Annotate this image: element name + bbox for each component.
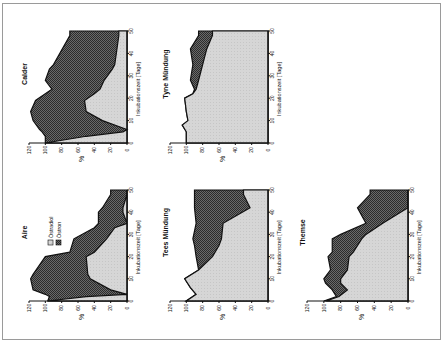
panel-title: Themse [299,219,306,246]
percent-tick-label: 60 [75,305,81,311]
y-axis-label: % [219,314,226,320]
y-axis-label: % [78,156,85,162]
percent-tick-label: 40 [232,147,238,153]
percent-tick-label: 100 [42,146,48,155]
y-axis-label: % [78,314,85,320]
percent-tick-label: 80 [337,305,343,311]
panel-calder: 02040608010012001020304050Inkubationszei… [21,28,141,162]
day-tick-label: 10 [269,276,275,282]
day-tick-label: 0 [269,141,275,144]
percent-tick-label: 100 [183,146,189,155]
day-tick-label: 10 [269,118,275,124]
panel-tees-mündung: 02040608010012001020304050Inkubationszei… [162,187,282,320]
percent-tick-label: 40 [91,147,97,153]
day-tick-label: 50 [269,28,275,34]
day-tick-label: 50 [128,187,134,193]
y-axis-label: % [358,314,365,320]
percent-tick-label: 60 [75,147,81,153]
day-tick-label: 50 [409,187,415,193]
x-axis-label: Inkubationszeit [Tage] [135,220,141,275]
percent-tick-label: 0 [124,148,130,151]
percent-tick-label: 100 [183,304,189,313]
percent-tick-label: 0 [265,306,271,309]
panel-title: Tyne Mündung [162,49,170,98]
x-axis-label: Inkubationszeit [Tage] [276,220,282,275]
day-tick-label: 40 [269,209,275,215]
day-tick-label: 50 [269,187,275,193]
percent-tick-label: 20 [107,147,113,153]
percent-tick-label: 80 [199,147,205,153]
day-tick-label: 30 [269,73,275,79]
percent-tick-label: 60 [216,305,222,311]
percent-tick-label: 0 [405,306,411,309]
panel-aire: 02040608010012001020304050Inkubationszei… [21,187,141,320]
legend-swatch [48,240,53,245]
panel-title: Tees Mündung [162,208,170,257]
percent-tick-label: 100 [321,304,327,313]
day-tick-label: 20 [409,254,415,260]
y-axis-label: % [219,156,226,162]
day-tick-label: 40 [409,209,415,215]
percent-tick-label: 60 [216,147,222,153]
percent-tick-label: 80 [58,147,64,153]
day-tick-label: 30 [128,73,134,79]
panel-title: Aire [21,226,28,240]
day-tick-label: 0 [409,299,415,302]
percent-tick-label: 80 [58,305,64,311]
percent-tick-label: 0 [124,306,130,309]
percent-tick-label: 20 [248,305,254,311]
percent-tick-label: 120 [26,146,32,155]
panel-themse: 02040608010012001020304050Inkubationszei… [299,187,422,320]
panel-title: Calder [21,63,28,85]
day-tick-label: 40 [269,50,275,56]
percent-tick-label: 60 [354,305,360,311]
x-axis-label: Inkubationszeit [Tage] [135,62,141,117]
chart-figure: 02040608010012001020304050Inkubationszei… [0,0,445,344]
day-tick-label: 20 [128,95,134,101]
day-tick-label: 10 [128,276,134,282]
x-axis-label: Inkubationszeit [Tage] [276,62,282,117]
legend-label: Östradiol [48,216,54,238]
x-axis-label: Inkubationszeit [Tage] [416,220,422,275]
percent-tick-label: 40 [91,305,97,311]
percent-tick-label: 120 [167,304,173,313]
day-tick-label: 10 [409,276,415,282]
day-tick-label: 40 [128,50,134,56]
day-tick-label: 20 [269,254,275,260]
percent-tick-label: 20 [248,147,254,153]
percent-tick-label: 20 [107,305,113,311]
day-tick-label: 30 [269,231,275,237]
day-tick-label: 0 [128,141,134,144]
percent-tick-label: 40 [232,305,238,311]
day-tick-label: 20 [128,254,134,260]
percent-tick-label: 120 [304,304,310,313]
day-tick-label: 30 [128,231,134,237]
day-tick-label: 30 [409,231,415,237]
day-tick-label: 0 [269,299,275,302]
percent-tick-label: 120 [167,146,173,155]
panel-tyne-mündung: 02040608010012001020304050Inkubationszei… [162,28,282,162]
percent-tick-label: 20 [388,305,394,311]
percent-tick-label: 100 [42,304,48,313]
day-tick-label: 40 [128,209,134,215]
legend: ÖstradiolÖstron [48,216,62,245]
percent-tick-label: 0 [265,148,271,151]
day-tick-label: 0 [128,299,134,302]
percent-tick-label: 120 [26,304,32,313]
day-tick-label: 20 [269,95,275,101]
legend-label: Östron [56,222,62,238]
legend-swatch [56,240,61,245]
day-tick-label: 50 [128,28,134,34]
percent-tick-label: 40 [371,305,377,311]
percent-tick-label: 80 [199,305,205,311]
day-tick-label: 10 [128,118,134,124]
